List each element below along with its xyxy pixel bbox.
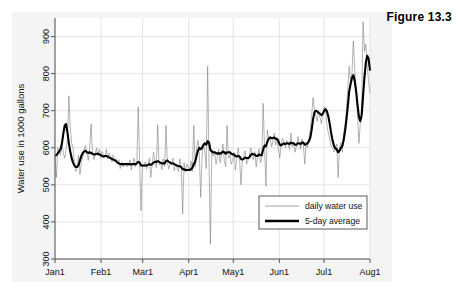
y-axis-title: Water use in 1000 gallons <box>15 84 26 194</box>
x-tick-label: Aug1 <box>359 267 380 277</box>
water-use-chart: 300400500600700800900Jan1Feb1Mar1Apr1May… <box>12 12 392 282</box>
legend-label-5-day-average: 5-day average <box>305 216 360 226</box>
y-tick-label: 800 <box>41 66 51 81</box>
x-tick-label: Jun1 <box>270 267 290 277</box>
figure-caption: Figure 13.3 <box>386 10 452 24</box>
y-tick-label: 500 <box>41 177 51 192</box>
x-tick-label: Jan1 <box>45 267 65 277</box>
figure-panel: 300400500600700800900Jan1Feb1Mar1Apr1May… <box>12 12 392 282</box>
y-tick-label: 900 <box>41 29 51 44</box>
x-tick-label: Jul1 <box>316 267 333 277</box>
y-tick-label: 600 <box>41 140 51 155</box>
y-tick-label: 700 <box>41 103 51 118</box>
x-tick-label: Mar1 <box>132 267 153 277</box>
x-tick-label: Feb1 <box>91 267 112 277</box>
x-tick-label: Apr1 <box>179 267 198 277</box>
legend-label-daily-water-use: daily water use <box>305 201 363 211</box>
x-tick-label: May1 <box>222 267 244 277</box>
y-tick-label: 400 <box>41 214 51 229</box>
y-tick-label: 300 <box>41 251 51 266</box>
